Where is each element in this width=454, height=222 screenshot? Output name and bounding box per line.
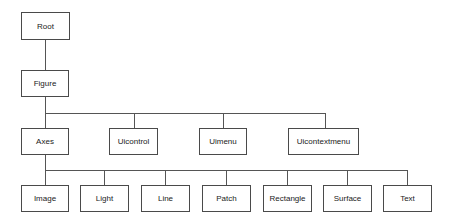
node-root: Root bbox=[21, 12, 70, 40]
node-text: Text bbox=[383, 185, 432, 212]
node-figure: Figure bbox=[21, 70, 69, 97]
connector-light bbox=[104, 170, 105, 185]
node-uicontextmenu: Uicontextmenu bbox=[288, 128, 359, 155]
node-uimenu: Uimenu bbox=[199, 128, 247, 155]
connector-text bbox=[407, 170, 408, 185]
connector-axes-bus bbox=[45, 155, 46, 170]
node-image: Image bbox=[21, 185, 69, 212]
node-light: Light bbox=[80, 185, 129, 212]
node-surface: Surface bbox=[323, 185, 372, 212]
node-uicontrol: Uicontrol bbox=[109, 128, 158, 155]
hierarchy-diagram: Root Figure Axes Uicontrol Uimenu Uicont… bbox=[0, 0, 454, 222]
connector-figure-bus bbox=[45, 97, 46, 113]
node-rectangle: Rectangle bbox=[263, 185, 312, 212]
connector-uicontrol bbox=[134, 113, 135, 128]
connector-patch bbox=[226, 170, 227, 185]
node-axes: Axes bbox=[21, 128, 69, 155]
connector-axes bbox=[45, 113, 46, 128]
connector-surface bbox=[347, 170, 348, 185]
connector-uicontextmenu bbox=[325, 113, 326, 128]
node-patch: Patch bbox=[202, 185, 251, 212]
connector-root-figure bbox=[45, 40, 46, 70]
node-line: Line bbox=[141, 185, 190, 212]
connector-image bbox=[45, 170, 46, 185]
connector-line bbox=[165, 170, 166, 185]
bus-level2 bbox=[45, 113, 326, 114]
connector-rectangle bbox=[287, 170, 288, 185]
connector-uimenu bbox=[223, 113, 224, 128]
